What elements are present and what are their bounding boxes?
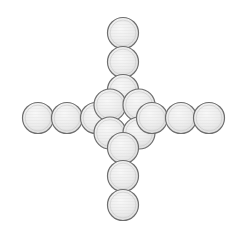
disc-texture — [109, 19, 137, 47]
disc-texture — [195, 104, 223, 132]
disc-texture — [109, 134, 137, 162]
disc-top-1 — [108, 18, 139, 49]
disc-texture — [138, 104, 166, 132]
disc-texture — [109, 191, 137, 219]
image-canvas — [0, 0, 242, 237]
disc-right-2 — [166, 103, 197, 134]
disc-texture — [95, 90, 124, 119]
disc-texture — [167, 104, 195, 132]
disc-bottom-2 — [108, 161, 139, 192]
disc-bottom-1 — [108, 133, 139, 164]
disc-texture — [24, 104, 52, 132]
disc-top-2 — [108, 47, 139, 78]
disc-texture — [53, 104, 81, 132]
disc-left-1 — [23, 103, 54, 134]
disc-texture — [109, 48, 137, 76]
disc-bottom-3 — [108, 190, 139, 221]
disc-center-1 — [94, 89, 126, 121]
disc-arrangement-illustration — [0, 0, 242, 237]
disc-texture — [109, 162, 137, 190]
disc-right-1 — [137, 103, 168, 134]
disc-left-2 — [52, 103, 83, 134]
disc-right-3 — [194, 103, 225, 134]
